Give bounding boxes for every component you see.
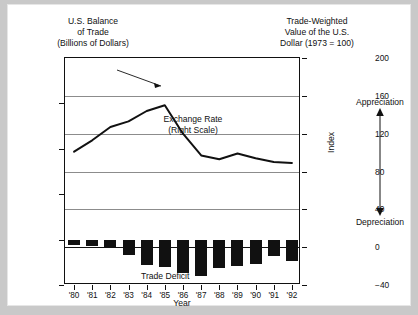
chart-title-right: Trade-Weighted Value of the U.S. Dollar … (242, 16, 392, 50)
x-axis-tick (219, 285, 220, 290)
x-axis-tick (129, 285, 130, 290)
x-axis-tick (292, 285, 293, 290)
right-axis-tick-label: 0 (375, 242, 415, 252)
x-axis-tick (92, 285, 93, 290)
right-axis-tick (302, 285, 307, 286)
chart-title-left: U.S. Balance of Trade (Billions of Dolla… (18, 16, 168, 50)
left-axis-tick (59, 240, 64, 241)
right-axis-tick (302, 58, 307, 59)
right-axis-tick (302, 247, 307, 248)
left-axis-tick (59, 149, 64, 150)
right-axis-tick (302, 134, 307, 135)
double-arrow-icon (344, 107, 416, 217)
right-axis-tick-label: −40 (375, 280, 415, 290)
x-axis-tick (183, 285, 184, 290)
left-axis-tick (59, 103, 64, 104)
right-axis-tick-label: 200 (375, 53, 415, 63)
x-axis-tick (74, 285, 75, 290)
appreciation-depreciation-scale: Appreciation Depreciation (344, 97, 416, 227)
depreciation-label: Depreciation (344, 217, 416, 227)
x-axis-tick (256, 285, 257, 290)
x-axis-tick (110, 285, 111, 290)
plot-area: −2000+200+400+600 −4004080120160200 '80'… (64, 57, 300, 284)
right-axis-tick (302, 172, 307, 173)
x-axis-tick (147, 285, 148, 290)
x-axis-tick (201, 285, 202, 290)
x-axis-tick (237, 285, 238, 290)
x-axis-title: Year (64, 298, 300, 308)
exchange-rate-line (65, 58, 301, 285)
right-axis-tick (302, 209, 307, 210)
annotation-exchange-rate: Exchange Rate (Right Scale) (133, 114, 253, 136)
appreciation-label: Appreciation (344, 97, 416, 107)
left-axis-tick (59, 194, 64, 195)
left-axis-tick (59, 285, 64, 286)
right-axis-title: Index (326, 132, 336, 153)
chart-figure: U.S. Balance of Trade (Billions of Dolla… (8, 5, 410, 305)
annotation-trade-deficit: Trade Deficit (141, 271, 189, 281)
x-axis-tick (274, 285, 275, 290)
x-axis-tick (165, 285, 166, 290)
right-axis-tick (302, 96, 307, 97)
